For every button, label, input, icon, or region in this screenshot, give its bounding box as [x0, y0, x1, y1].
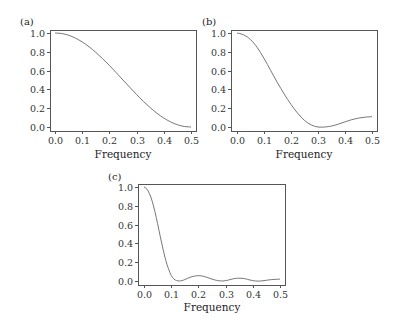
x-tick-label: 0.5 [184, 135, 199, 146]
y-tick-label: 0.8 [118, 201, 133, 212]
x-tick-label: 0.4 [338, 135, 353, 146]
x-tick-label: 0.1 [164, 289, 179, 300]
x-tick-label: 0.0 [230, 135, 245, 146]
x-axis-label: Frequency [95, 148, 152, 160]
x-tick-label: 0.3 [130, 135, 145, 146]
y-tick-label: 0.8 [30, 47, 45, 58]
y-tick-label: 0.6 [211, 66, 226, 77]
panel-c: (c) Frequency 0.00.10.20.30.40.50.00.20.… [108, 171, 288, 313]
x-tick-label: 0.0 [48, 135, 63, 146]
x-tick-label: 0.2 [284, 135, 299, 146]
y-tick-label: 0.2 [118, 257, 133, 268]
data-curve [237, 33, 372, 127]
y-tick-label: 1.0 [30, 28, 45, 39]
y-tick-label: 0.2 [211, 103, 226, 114]
y-tick-label: 0.4 [211, 84, 226, 95]
y-tick-label: 0.6 [30, 66, 45, 77]
data-curve [144, 187, 280, 281]
x-tick-label: 0.1 [75, 135, 90, 146]
x-tick-label: 0.1 [257, 135, 272, 146]
x-tick-label: 0.3 [219, 289, 234, 300]
x-tick-label: 0.5 [365, 135, 380, 146]
x-tick-label: 0.4 [157, 135, 172, 146]
x-tick-label: 0.4 [246, 289, 261, 300]
panel-label: (c) [108, 171, 122, 182]
y-tick-label: 0.6 [118, 220, 133, 231]
x-axis-label: Frequency [184, 301, 241, 313]
data-curve [55, 33, 191, 127]
y-tick-label: 0.4 [118, 238, 133, 249]
x-tick-label: 0.2 [102, 135, 117, 146]
x-axis-label: Frequency [276, 148, 333, 160]
y-tick-label: 0.0 [211, 122, 226, 133]
x-tick-label: 0.5 [273, 289, 288, 300]
y-tick-label: 0.2 [30, 103, 45, 114]
y-tick-label: 1.0 [211, 28, 226, 39]
panel-a: (a) Frequency 0.00.10.20.30.40.50.00.20.… [20, 16, 199, 160]
panel-label: (a) [20, 16, 34, 27]
y-tick-label: 1.0 [118, 182, 133, 193]
y-tick-label: 0.8 [211, 47, 226, 58]
axes-frame [139, 185, 286, 286]
y-tick-label: 0.0 [30, 122, 45, 133]
x-tick-label: 0.2 [191, 289, 206, 300]
axes-frame [232, 31, 378, 132]
x-tick-label: 0.3 [311, 135, 326, 146]
panel-label: (b) [202, 16, 216, 27]
y-tick-label: 0.0 [118, 276, 133, 287]
y-tick-label: 0.4 [30, 84, 45, 95]
panel-b: (b) Frequency 0.00.10.20.30.40.50.00.20.… [202, 16, 380, 160]
x-tick-label: 0.0 [137, 289, 152, 300]
figure: (a) Frequency 0.00.10.20.30.40.50.00.20.… [0, 0, 395, 331]
